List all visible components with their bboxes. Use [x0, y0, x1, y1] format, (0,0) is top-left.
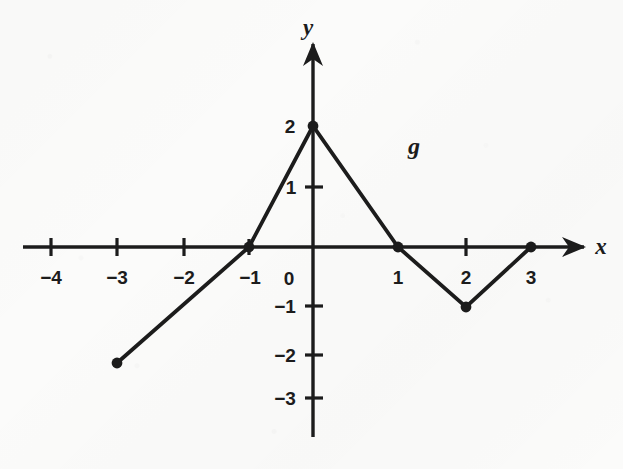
function-g-points	[112, 121, 537, 369]
point-minimum-at-2	[461, 302, 472, 313]
graph-figure: −4 −3 −2 −1 0 1 2 3 2 1 −1 −2 −3 x y g	[0, 0, 623, 469]
x-tick-label--1: −1	[239, 268, 260, 287]
x-tick-label-3: 3	[526, 268, 536, 287]
point-endpoint-right	[526, 242, 537, 253]
y-axis-label: y	[303, 16, 313, 39]
curve-label-g: g	[408, 134, 420, 158]
y-tick-label--1: −1	[274, 297, 295, 316]
x-tick-label--2: −2	[173, 268, 194, 287]
x-axis-label: x	[595, 235, 607, 258]
y-tick-label--2: −2	[274, 346, 295, 365]
point-endpoint-left	[112, 358, 123, 369]
y-tick-label-2: 2	[285, 117, 295, 136]
point-x-intercept-1	[393, 242, 404, 253]
x-tick-label-2: 2	[461, 268, 471, 287]
function-g-curve	[117, 126, 531, 363]
x-tick-label--4: −4	[40, 268, 61, 287]
x-tick-label--3: −3	[106, 268, 127, 287]
y-tick-label--3: −3	[274, 389, 295, 408]
point-x-intercept-minus-1	[244, 242, 255, 253]
point-maximum-at-0	[308, 121, 319, 132]
x-tick-label-0: 0	[284, 269, 294, 288]
x-tick-label-1: 1	[393, 268, 403, 287]
y-tick-label-1: 1	[286, 178, 296, 197]
coordinate-plane-svg	[0, 0, 623, 469]
